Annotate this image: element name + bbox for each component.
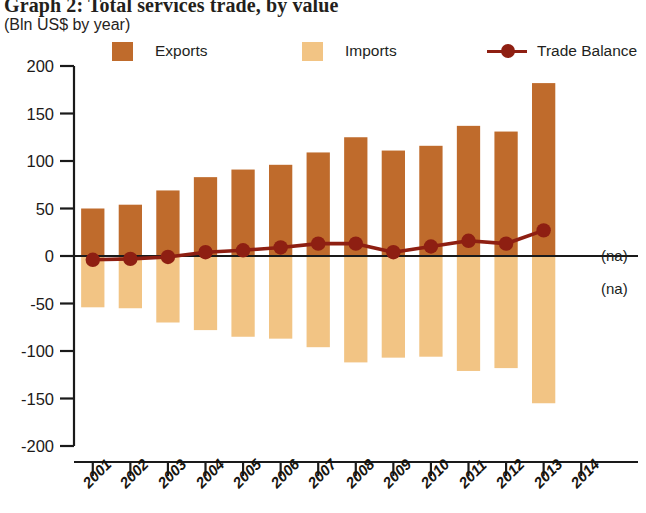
data-point-marker: [386, 245, 400, 259]
y-axis-tick-label: 50: [8, 199, 54, 218]
plot-area: 200150100500-50-100-150-200 200120022003…: [0, 0, 646, 513]
y-axis: [60, 66, 74, 446]
data-point-marker: [349, 236, 363, 250]
bar-exports: [231, 170, 254, 256]
data-point-marker: [236, 243, 250, 257]
bar-imports: [231, 256, 254, 337]
plot-svg: [0, 0, 646, 513]
bar-imports: [307, 256, 330, 347]
na-label-below: (na): [601, 280, 628, 297]
y-axis-tick-label: -150: [8, 389, 54, 408]
bar-exports: [119, 205, 142, 256]
bar-imports: [494, 256, 517, 368]
data-point-marker: [424, 239, 438, 253]
data-point-marker: [536, 223, 550, 237]
bar-imports: [382, 256, 405, 358]
bar-imports: [156, 256, 179, 323]
bar-imports: [269, 256, 292, 339]
y-axis-tick-label: 150: [8, 104, 54, 123]
bar-imports: [344, 256, 367, 362]
bar-exports: [382, 151, 405, 256]
bar-exports: [156, 190, 179, 256]
chart-figure: Graph 2: Total services trade, by value …: [0, 0, 646, 513]
data-point-marker: [86, 253, 100, 267]
data-point-marker: [198, 245, 212, 259]
bar-imports: [419, 256, 442, 357]
data-point-marker: [499, 236, 513, 250]
y-axis-tick-label: 0: [8, 247, 54, 266]
y-axis-tick-label: -200: [8, 437, 54, 456]
bar-imports: [532, 256, 555, 403]
y-axis-tick-label: -100: [8, 342, 54, 361]
data-point-marker: [461, 234, 475, 248]
y-axis-tick-label: -50: [8, 294, 54, 313]
data-point-marker: [161, 250, 175, 264]
bar-imports: [194, 256, 217, 330]
data-point-marker: [311, 236, 325, 250]
data-point-marker: [123, 252, 137, 266]
na-label-above: (na): [601, 247, 628, 264]
y-axis-tick-label: 100: [8, 152, 54, 171]
data-point-marker: [273, 240, 287, 254]
bar-exports: [81, 209, 104, 257]
y-axis-tick-label: 200: [8, 57, 54, 76]
bar-exports: [194, 177, 217, 256]
bar-imports: [457, 256, 480, 371]
